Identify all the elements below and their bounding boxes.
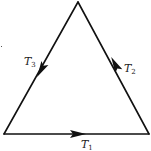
arrow-up-icon [108,55,123,73]
triangle-diagram: T3 T2 T1 [0,0,151,151]
label-t1: T1 [81,138,93,151]
label-t3: T3 [24,55,36,69]
label-t2: T2 [124,62,136,76]
stray-mark [1,46,2,47]
edge-t2 [78,2,149,134]
